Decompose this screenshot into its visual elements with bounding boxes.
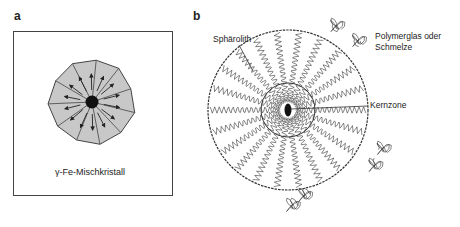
core-leader-line	[291, 106, 368, 109]
spherulite-leader-line	[239, 45, 253, 71]
polymer-label-line2: Schmelze	[375, 42, 412, 52]
spherulite-label: Sphärolith	[213, 34, 251, 44]
nucleus-dot	[86, 96, 99, 109]
core-label: Kernzone	[370, 100, 406, 110]
core-nucleus	[285, 104, 292, 117]
polymer-label-line1: Polymerglas oder	[375, 31, 441, 41]
crystal-caption: γ-Fe-Mischkristall	[55, 167, 125, 177]
